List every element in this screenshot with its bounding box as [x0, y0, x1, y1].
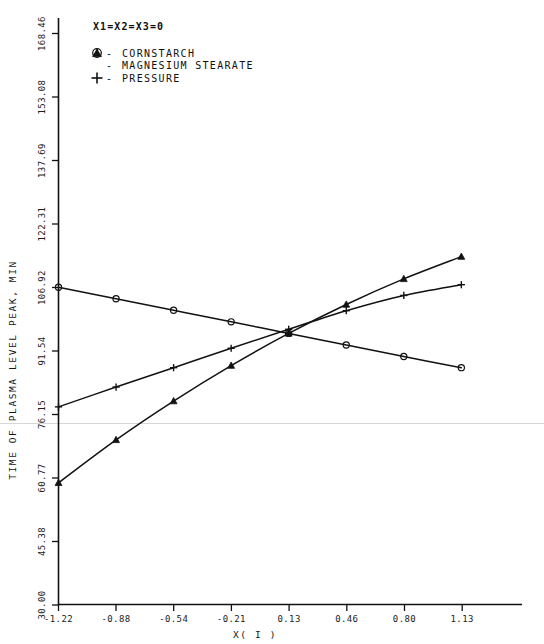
x-tick-label: -0.88	[101, 614, 130, 624]
line-chart-svg: 30.00 45.38 60.77 76.15 91.54 106.92 122…	[0, 0, 544, 644]
y-tick-label: 45.38	[37, 527, 47, 556]
y-tick-label: 76.15	[37, 400, 47, 429]
legend-item-pressure: - PRESSURE	[92, 73, 181, 85]
series-line	[59, 285, 462, 407]
legend: - CORNSTARCH - MAGNESIUM STEARATE - PRES…	[92, 48, 254, 84]
x-tick-labels: -1.22 -0.88 -0.54 -0.21 0.13 0.46 0.80 1…	[44, 614, 474, 624]
data-point-triangle	[458, 253, 465, 259]
series-cornstarch	[55, 284, 464, 371]
series-magnesium-stearate	[55, 253, 465, 485]
x-tick-label: -0.54	[159, 614, 188, 624]
data-series-layer	[55, 253, 465, 485]
x-tick-label: 1.13	[451, 614, 474, 624]
legend-label-cornstarch: CORNSTARCH	[122, 48, 195, 59]
y-tick-labels: 30.00 45.38 60.77 76.15 91.54 106.92 122…	[37, 16, 47, 620]
x-tick-label: 0.80	[393, 614, 416, 624]
series-line	[59, 257, 462, 483]
data-point-triangle	[113, 436, 120, 442]
legend-label-pressure: PRESSURE	[122, 73, 181, 84]
y-tick-label: 168.46	[37, 16, 47, 51]
y-tick-label: 153.08	[37, 80, 47, 115]
y-axis-ticks	[52, 34, 59, 606]
legend-dash: -	[106, 48, 113, 59]
series-pressure	[55, 281, 465, 410]
legend-dash: -	[106, 60, 113, 71]
x-axis-ticks	[59, 605, 463, 612]
plus-icon	[92, 73, 103, 84]
legend-dash: -	[106, 73, 113, 84]
y-axis-title: TIME OF PLASMA LEVEL PEAK, MIN	[7, 260, 18, 480]
y-tick-label: 91.54	[37, 336, 47, 365]
x-axis-title: X( I )	[233, 629, 277, 640]
y-tick-label: 60.77	[37, 463, 47, 492]
x-tick-label: 0.13	[277, 614, 300, 624]
legend-item-cornstarch: - CORNSTARCH	[93, 48, 196, 59]
data-point-triangle	[170, 398, 177, 404]
x-tick-label: -0.21	[217, 614, 246, 624]
axis-group	[59, 18, 523, 605]
x-tick-label: -1.22	[44, 614, 73, 624]
chart-figure: 30.00 45.38 60.77 76.15 91.54 106.92 122…	[0, 0, 544, 644]
y-tick-label: 122.31	[37, 207, 47, 242]
y-tick-label: 137.69	[37, 143, 47, 178]
legend-label-magnesium-stearate: MAGNESIUM STEARATE	[122, 60, 254, 71]
data-point-triangle	[228, 362, 235, 368]
x-tick-label: 0.46	[335, 614, 358, 624]
y-tick-label: 106.92	[37, 270, 47, 305]
condition-annotation: X1=X2=X3=0	[93, 21, 164, 32]
